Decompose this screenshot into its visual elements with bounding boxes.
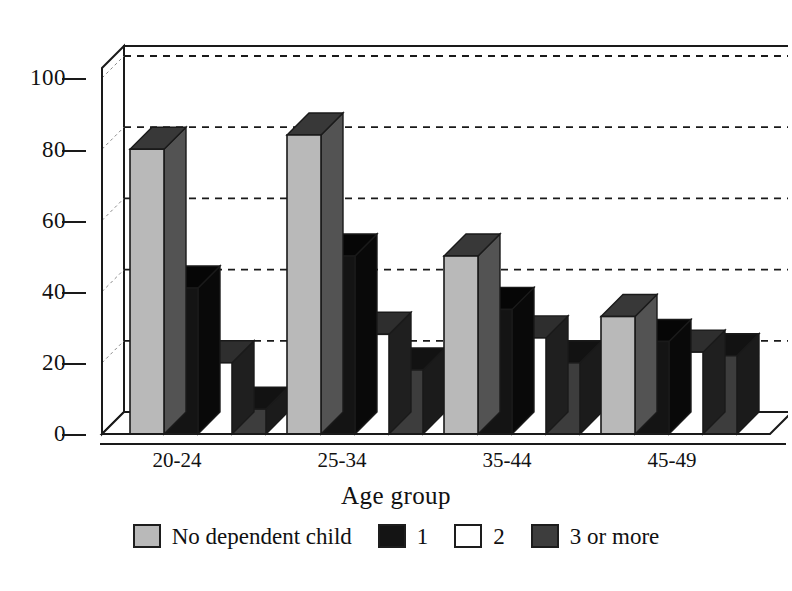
bar <box>601 295 657 434</box>
bar <box>444 234 500 434</box>
y-tick-mark-0 <box>62 434 86 436</box>
y-tick-label-60: 60 <box>4 209 66 232</box>
y-tick-mark-80 <box>62 150 86 152</box>
legend-swatch-one <box>378 524 406 548</box>
x-tick-label-1: 25-34 <box>282 450 402 471</box>
cut-off-title-remnant: · · · ·· ···· ·· ·· · ······ · ·· ·· ·· … <box>160 0 580 5</box>
x-tick-label-3: 45-49 <box>612 450 732 471</box>
y-tick-label-40: 40 <box>4 280 66 303</box>
legend-swatch-three-or-more <box>531 524 559 548</box>
legend-label: 2 <box>493 525 505 548</box>
bar <box>287 113 343 434</box>
legend-item: 2 <box>454 524 505 548</box>
x-tick-label-0: 20-24 <box>117 450 237 471</box>
plot-area <box>88 34 788 446</box>
y-tick-label-100: 100 <box>4 66 66 89</box>
y-tick-label-0: 0 <box>4 422 66 445</box>
y-tick-mark-40 <box>62 292 86 294</box>
y-tick-mark-20 <box>62 363 86 365</box>
legend-label: No dependent child <box>172 525 352 548</box>
x-tick-label-2: 35-44 <box>447 450 567 471</box>
chart-figure: · · · ·· ···· ·· ·· · ······ · ·· ·· ·· … <box>0 0 792 591</box>
y-tick-label-80: 80 <box>4 138 66 161</box>
legend-label: 3 or more <box>570 525 659 548</box>
legend-swatch-two <box>454 524 482 548</box>
y-tick-mark-100 <box>62 78 86 80</box>
y-tick-mark-60 <box>62 221 86 223</box>
legend-swatch-no-dependent-child <box>133 524 161 548</box>
chart-legend: No dependent child 1 2 3 or more <box>0 524 792 548</box>
legend-item: No dependent child <box>133 524 352 548</box>
bar <box>130 127 186 434</box>
legend-item: 1 <box>378 524 429 548</box>
legend-label: 1 <box>417 525 429 548</box>
y-tick-label-20: 20 <box>4 351 66 374</box>
legend-item: 3 or more <box>531 524 659 548</box>
x-axis-title: Age group <box>0 482 792 510</box>
chart-canvas <box>88 34 788 446</box>
